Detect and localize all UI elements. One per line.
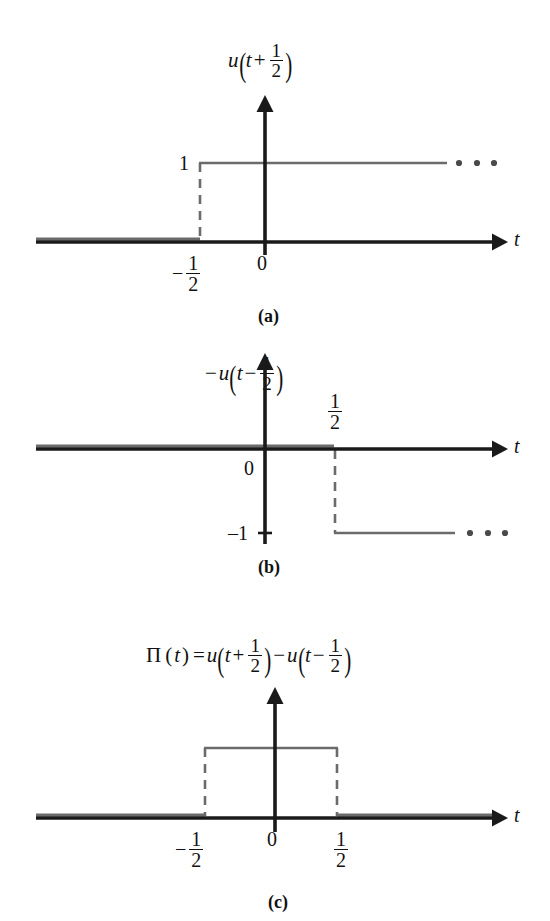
panel-a-y-axis-arrow-icon: [257, 95, 274, 112]
fraction-numerator: 1: [189, 829, 203, 849]
panel-c: Π(t)=u(t+12)−u(t−12) 0 t −12 12 (c): [0, 610, 550, 921]
fraction-numerator: 1: [334, 829, 348, 849]
minus-sign: −: [172, 262, 183, 285]
panel-b-t-label: t: [514, 435, 520, 458]
fraction-numerator: 1: [186, 253, 200, 273]
tick-fraction: 12: [328, 391, 342, 433]
panel-b-tick-half: 12: [326, 392, 344, 434]
ellipsis-dot: [474, 160, 480, 166]
panel-c-origin-label: 0: [267, 828, 277, 851]
fraction-denominator: 2: [186, 273, 200, 294]
panel-a-tick-minus-half: −12: [172, 254, 202, 296]
panel-b-caption: (b): [258, 557, 280, 578]
fraction-denominator: 2: [189, 849, 203, 870]
panel-c-tick-half: 12: [332, 830, 350, 872]
panel-a-origin-label: 0: [257, 252, 267, 275]
panel-a-plot: [0, 0, 550, 330]
panel-a-t-axis-arrow-icon: [492, 234, 508, 251]
panel-c-t-label: t: [514, 804, 520, 827]
panel-a-caption: (a): [258, 306, 279, 327]
ellipsis-dot: [491, 160, 497, 166]
tick-fraction: 12: [334, 829, 348, 871]
panel-c-caption: (c): [268, 892, 288, 913]
fraction-numerator: 1: [328, 391, 342, 411]
panel-a: u(t+12) 1 0 t −12 (a): [0, 0, 550, 330]
panel-a-level-label: 1: [179, 152, 189, 175]
panel-b-t-axis-arrow-icon: [492, 441, 508, 458]
ellipsis-dot: [502, 530, 508, 536]
tick-fraction: 12: [186, 253, 200, 295]
panel-a-t-label: t: [514, 228, 520, 251]
panel-b-level-label: –1: [228, 522, 248, 545]
ellipsis-dot: [485, 530, 491, 536]
panel-c-y-axis-arrow-icon: [267, 687, 284, 704]
minus-sign: −: [175, 838, 186, 861]
fraction-denominator: 2: [328, 411, 342, 432]
panel-b-origin-label: 0: [244, 457, 254, 480]
tick-fraction: 12: [189, 829, 203, 871]
ellipsis-dot: [467, 530, 473, 536]
panel-c-plot: [0, 610, 550, 921]
panel-b-y-axis-arrow-icon: [257, 353, 274, 370]
fraction-denominator: 2: [334, 849, 348, 870]
panel-b: −u(t−12) 0 –1 t 12 (b): [0, 330, 550, 610]
panel-c-tick-minus-half: −12: [175, 830, 205, 872]
panel-c-t-axis-arrow-icon: [492, 810, 508, 827]
ellipsis-dot: [456, 160, 462, 166]
